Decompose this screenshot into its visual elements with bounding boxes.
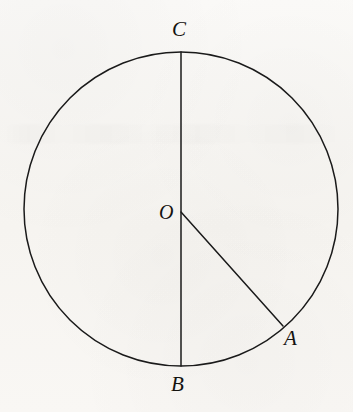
radius-line-oa xyxy=(181,212,283,326)
geometry-figure: C O A B xyxy=(0,0,353,412)
point-label-o: O xyxy=(159,202,173,222)
geometry-canvas xyxy=(0,0,353,412)
point-label-c: C xyxy=(172,19,186,40)
point-label-a: A xyxy=(284,328,297,349)
point-label-b: B xyxy=(171,374,184,395)
